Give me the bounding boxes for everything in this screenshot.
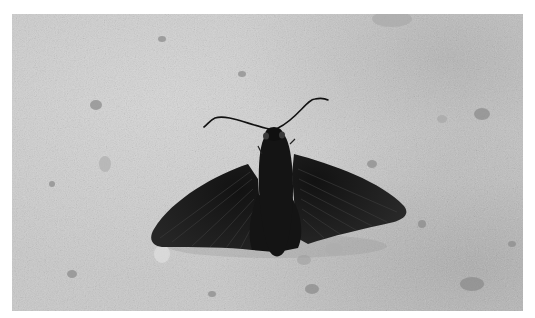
butterfly-photo <box>12 14 523 311</box>
photo-illustration <box>12 14 523 311</box>
cropped-caption-text <box>12 0 523 5</box>
butterfly-eye-right <box>279 132 285 139</box>
butterfly-eye-left <box>263 133 269 140</box>
